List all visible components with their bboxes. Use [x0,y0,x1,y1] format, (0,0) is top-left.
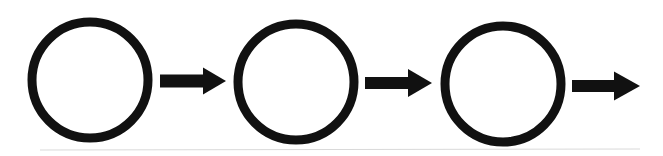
arrow-head-3 [614,72,640,101]
circle-node-3 [445,26,561,142]
arrow-head-2 [408,69,432,97]
flow-diagram [0,0,663,156]
arrow-shaft-1 [160,75,204,88]
arrow-shaft-3 [572,80,615,92]
circle-node-1 [32,22,148,138]
arrow-right-icon [160,68,226,95]
arrow-shaft-2 [365,77,409,89]
arrow-head-1 [203,68,226,95]
circle-node-2 [238,24,354,140]
nodes-layer [32,22,561,142]
baseline-divider [40,149,640,150]
arrow-right-icon [572,72,640,101]
diagram-canvas [0,0,663,156]
arrow-right-icon [365,69,432,97]
arrows-layer [160,68,640,101]
